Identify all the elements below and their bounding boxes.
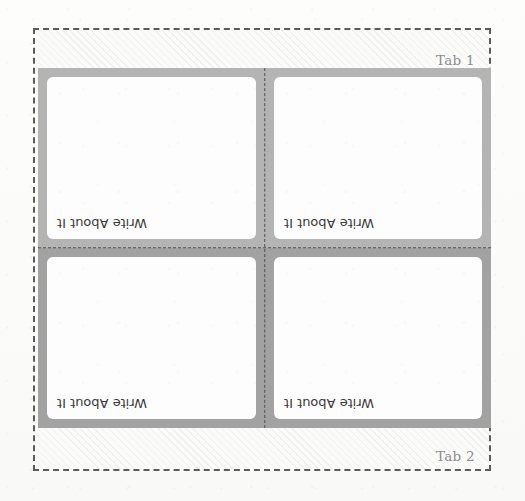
card-cell-top-right: Write About It [265,68,492,248]
card-prompt-label: Write About It [57,216,147,231]
card-cell-bottom-right: Write About It [265,248,492,428]
write-about-it-card[interactable]: Write About It [47,257,256,419]
worksheet-page: Tab 1 Tab 2 Write About It Write About I… [0,0,525,501]
card-prompt-label: Write About It [284,396,374,411]
tab-band-bottom: Tab 2 [35,425,489,469]
card-cell-bottom-left: Write About It [38,248,265,428]
card-prompt-label: Write About It [284,216,374,231]
tab-label-2: Tab 2 [436,448,475,464]
card-grid: Write About It Write About It Write Abou… [38,68,491,428]
write-about-it-card[interactable]: Write About It [274,77,483,239]
tab-label-1: Tab 1 [436,52,475,68]
card-prompt-label: Write About It [57,396,147,411]
write-about-it-card[interactable]: Write About It [274,257,483,419]
card-cell-top-left: Write About It [38,68,265,248]
write-about-it-card[interactable]: Write About It [47,77,256,239]
